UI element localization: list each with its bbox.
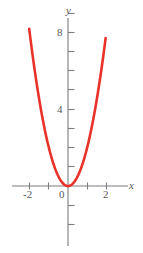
y-axis-group [68, 14, 75, 247]
graph-figure: y x 8 4 0 -2 2 [0, 0, 143, 253]
x-axis-label: x [129, 180, 134, 191]
x-tick-label-pos2: 2 [103, 189, 109, 200]
x-tick-label-neg2: -2 [23, 189, 32, 200]
parabola-left-right [68, 31, 106, 154]
origin-label-0: 0 [59, 189, 65, 200]
y-tick-label-4: 4 [57, 104, 63, 115]
parabola-y2x2-plot [29, 29, 105, 186]
coordinate-plot [0, 0, 143, 253]
y-axis-label: y [66, 5, 71, 16]
y-tick-label-8: 8 [57, 27, 63, 38]
